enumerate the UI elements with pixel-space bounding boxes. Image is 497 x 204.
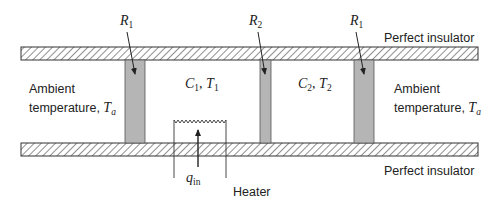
svg-text:C1, T1: C1, T1 xyxy=(185,76,219,93)
resistance-wall-r2 xyxy=(260,60,271,143)
top-insulator xyxy=(21,47,478,60)
top-insulator-label: Perfect insulator xyxy=(384,31,474,45)
heater-label: Heater xyxy=(233,185,271,199)
bottom-insulator-label: Perfect insulator xyxy=(384,164,474,178)
svg-text:temperature, Ta: temperature, Ta xyxy=(394,100,481,117)
ambient-right-label: Ambient temperature, Ta xyxy=(394,82,481,117)
heat-flow-label: qin xyxy=(186,170,201,187)
svg-text:R2: R2 xyxy=(248,13,263,30)
chamber-1-label: C1, T1 xyxy=(185,76,219,93)
svg-text:R1: R1 xyxy=(119,13,134,30)
chamber-2-label: C2, T2 xyxy=(298,76,332,93)
heater-coil xyxy=(174,120,226,123)
thermal-system-diagram: R1 R2 R1 Perfect insulator Perfect insul… xyxy=(0,0,497,204)
svg-text:temperature, Ta: temperature, Ta xyxy=(29,100,116,117)
svg-text:R1: R1 xyxy=(349,13,364,30)
svg-text:Ambient: Ambient xyxy=(29,82,75,96)
svg-text:Ambient: Ambient xyxy=(394,82,440,96)
bottom-insulator xyxy=(21,143,478,156)
svg-text:C2, T2: C2, T2 xyxy=(298,76,332,93)
ambient-left-label: Ambient temperature, Ta xyxy=(29,82,116,117)
